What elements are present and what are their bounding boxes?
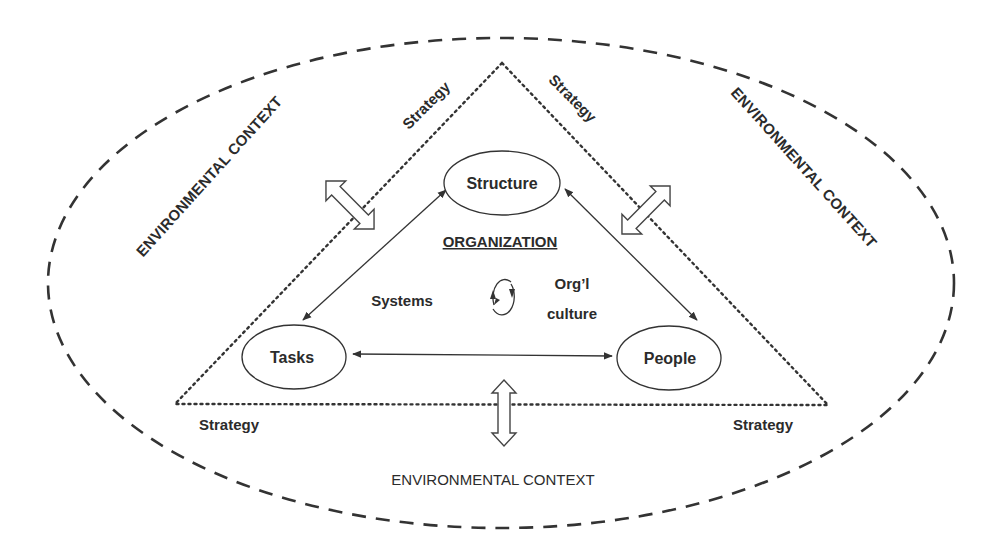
culture-label-line2: culture — [547, 305, 597, 322]
double-arrow-icon-bottom — [492, 380, 516, 446]
strategy-label-left-side: Strategy — [399, 77, 454, 132]
node-tasks: Tasks — [242, 325, 346, 389]
double-arrow-icon-left — [316, 171, 384, 239]
systems-label: Systems — [371, 292, 433, 309]
edge-tasks-people — [353, 354, 612, 356]
environment-boundary — [48, 38, 954, 528]
edge-structure-people — [565, 189, 697, 320]
node-people: People — [617, 326, 721, 390]
node-people-label: People — [644, 350, 697, 367]
culture-label-line1: Org’l — [554, 275, 589, 292]
organization-title: ORGANIZATION — [443, 233, 558, 250]
diagram-canvas: ENVIRONMENTAL CONTEXT ENVIRONMENTAL CONT… — [0, 0, 1002, 555]
node-structure-label: Structure — [466, 175, 537, 192]
env-label-top-right: ENVIRONMENTAL CONTEXT — [728, 84, 881, 251]
node-structure: Structure — [444, 151, 560, 215]
cycle-icon — [490, 280, 515, 315]
strategy-label-bottom-left: Strategy — [199, 416, 260, 433]
strategy-label-bottom-right: Strategy — [733, 416, 794, 433]
env-label-top-left: ENVIRONMENTAL CONTEXT — [133, 93, 286, 260]
env-label-bottom: ENVIRONMENTAL CONTEXT — [391, 471, 594, 488]
double-arrow-icon-right — [612, 176, 680, 244]
strategy-label-right-side: Strategy — [546, 71, 601, 126]
node-tasks-label: Tasks — [270, 349, 314, 366]
